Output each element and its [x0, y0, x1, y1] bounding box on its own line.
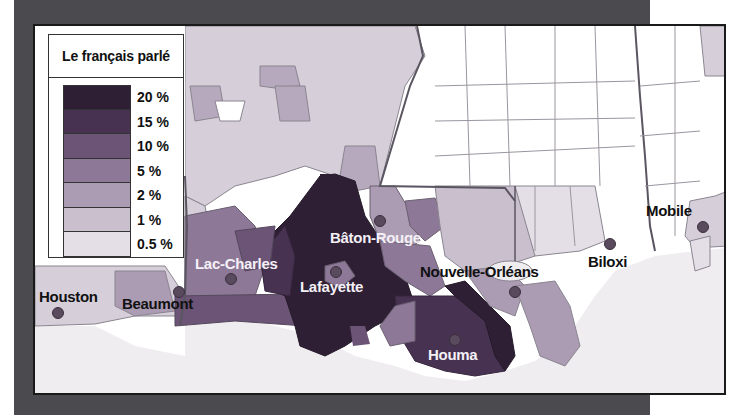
- legend-label: 20 %: [137, 89, 169, 105]
- city-label-beaumont: Beaumont: [122, 295, 193, 312]
- legend-swatch: [63, 183, 131, 208]
- legend-row-0-5: 0.5 %: [63, 232, 173, 257]
- legend-swatch: [63, 208, 131, 233]
- city-label-biloxi: Biloxi: [588, 253, 627, 270]
- legend-rows: 20 % 15 % 10 % 5 % 2 % 1 % 0.5 %: [63, 85, 173, 257]
- city-label-baton-rouge: Bâton-Rouge: [330, 229, 421, 246]
- new-orleans-dot: [509, 286, 521, 298]
- legend-row-1: 1 %: [63, 208, 173, 233]
- legend: Le français parlé 20 % 15 % 10 % 5 % 2 %…: [48, 34, 184, 258]
- legend-swatch: [63, 85, 131, 110]
- city-label-lake-charles: Lac-Charles: [195, 255, 278, 272]
- biloxi-dot: [604, 238, 616, 250]
- legend-label: 1 %: [137, 212, 161, 228]
- legend-label: 2 %: [137, 187, 161, 203]
- houston-dot: [52, 307, 64, 319]
- legend-row-15: 15 %: [63, 110, 173, 135]
- mobile-dot: [697, 221, 709, 233]
- houma-dot: [449, 334, 461, 346]
- legend-swatch: [63, 232, 131, 257]
- legend-swatch: [63, 134, 131, 159]
- legend-label: 5 %: [137, 163, 161, 179]
- legend-label: 15 %: [137, 114, 169, 130]
- legend-label: 0.5 %: [137, 236, 173, 252]
- city-label-mobile: Mobile: [646, 202, 692, 219]
- legend-swatch: [63, 159, 131, 184]
- legend-row-2: 2 %: [63, 183, 173, 208]
- legend-title: Le français parlé: [49, 35, 183, 78]
- legend-row-10: 10 %: [63, 134, 173, 159]
- legend-swatch: [63, 110, 131, 135]
- legend-label: 10 %: [137, 138, 169, 154]
- city-label-houston: Houston: [39, 288, 98, 305]
- lake-charles-dot: [225, 273, 237, 285]
- lafayette-dot: [330, 266, 342, 278]
- city-label-houma: Houma: [428, 346, 477, 363]
- baton-rouge-dot: [374, 215, 386, 227]
- city-label-new-orleans: Nouvelle-Orléans: [420, 263, 539, 280]
- city-label-lafayette: Lafayette: [300, 278, 363, 295]
- legend-row-5: 5 %: [63, 159, 173, 184]
- legend-row-20: 20 %: [63, 85, 173, 110]
